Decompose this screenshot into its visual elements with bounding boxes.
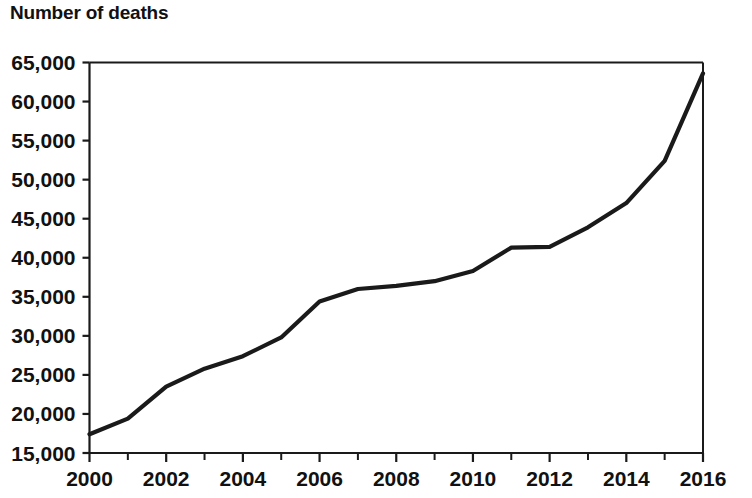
y-axis-tick-label: 60,000 — [11, 90, 75, 113]
chart-page: Number of deaths 15,00020,00025,00030,00… — [0, 0, 752, 498]
x-axis-tick-marks — [90, 453, 704, 462]
line-chart-svg: 15,00020,00025,00030,00035,00040,00045,0… — [0, 0, 752, 498]
y-axis-tick-label: 15,000 — [11, 442, 75, 465]
x-axis-tick-label: 2000 — [66, 467, 113, 490]
x-axis-tick-label: 2012 — [526, 467, 573, 490]
y-axis-tick-label: 25,000 — [11, 363, 75, 386]
y-axis-tick-label: 65,000 — [11, 51, 75, 74]
x-axis-tick-label: 2004 — [220, 467, 267, 490]
data-series-line — [90, 73, 704, 434]
x-axis-tick-label: 2008 — [373, 467, 420, 490]
y-axis-tick-label: 45,000 — [11, 207, 75, 230]
y-axis-tick-label: 40,000 — [11, 246, 75, 269]
y-axis-tick-label: 55,000 — [11, 129, 75, 152]
x-axis-tick-label: 2014 — [603, 467, 650, 490]
x-axis-tick-label: 2016 — [680, 467, 727, 490]
x-axis-tick-label: 2006 — [296, 467, 343, 490]
y-axis-tick-label: 30,000 — [11, 324, 75, 347]
x-axis-tick-label: 2010 — [450, 467, 497, 490]
y-axis-tick-label: 20,000 — [11, 402, 75, 425]
y-axis-tick-labels: 15,00020,00025,00030,00035,00040,00045,0… — [11, 51, 75, 465]
x-axis-tick-label: 2002 — [143, 467, 190, 490]
x-axis-tick-labels: 200020022004200620082010201220142016 — [66, 467, 726, 490]
chart-plot-area: 15,00020,00025,00030,00035,00040,00045,0… — [0, 0, 752, 498]
y-axis-tick-label: 50,000 — [11, 168, 75, 191]
y-axis-tick-label: 35,000 — [11, 285, 75, 308]
